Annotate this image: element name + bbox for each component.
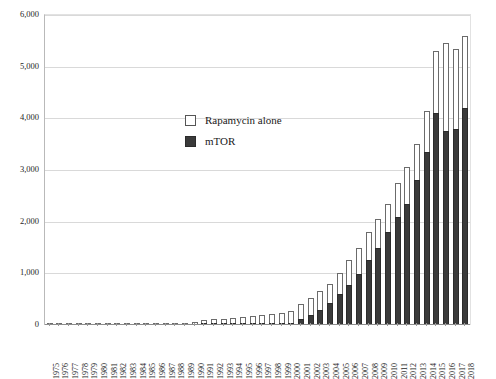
bar-group bbox=[462, 15, 468, 325]
x-tick-mark bbox=[445, 323, 446, 326]
x-tick-mark bbox=[310, 323, 311, 326]
bar-mtor bbox=[453, 129, 459, 325]
bar-group bbox=[337, 15, 343, 325]
bar-group bbox=[56, 15, 62, 325]
x-tick-mark bbox=[387, 323, 388, 326]
x-tick-label: 1990 bbox=[197, 363, 206, 379]
x-tick-mark bbox=[252, 323, 253, 326]
x-axis-labels: 1975197619771978197919801981198219831984… bbox=[44, 327, 471, 366]
bar-group bbox=[298, 15, 304, 325]
x-tick-label: 1982 bbox=[119, 363, 128, 379]
bar-group bbox=[221, 15, 227, 325]
x-tick-mark bbox=[271, 323, 272, 326]
x-tick-label: 1980 bbox=[100, 363, 109, 379]
x-tick-mark bbox=[155, 323, 156, 326]
bar-mtor bbox=[356, 274, 362, 325]
x-tick-mark bbox=[232, 323, 233, 326]
x-tick-mark bbox=[136, 323, 137, 326]
x-tick-label: 2010 bbox=[390, 363, 399, 379]
y-tick-label: 1,000 bbox=[20, 267, 39, 277]
x-tick-label: 2001 bbox=[303, 363, 312, 379]
y-tick-label: 6,000 bbox=[20, 9, 39, 19]
bar-mtor bbox=[337, 294, 343, 325]
bar-group bbox=[153, 15, 159, 325]
x-tick-label: 1994 bbox=[235, 363, 244, 379]
x-tick-label: 1997 bbox=[264, 363, 273, 379]
x-tick-label: 1984 bbox=[139, 363, 148, 379]
bar-group bbox=[453, 15, 459, 325]
bar-group bbox=[288, 15, 294, 325]
x-tick-mark bbox=[261, 323, 262, 326]
x-tick-mark bbox=[49, 323, 50, 326]
legend-swatch-icon-mtor bbox=[185, 136, 196, 147]
bar-group bbox=[240, 15, 246, 325]
x-tick-mark bbox=[348, 323, 349, 326]
x-tick-mark bbox=[68, 323, 69, 326]
x-tick-mark bbox=[107, 323, 108, 326]
x-tick-label: 1991 bbox=[206, 363, 215, 379]
bar-group bbox=[279, 15, 285, 325]
legend-item-mtor: mTOR bbox=[185, 135, 282, 147]
bar-group bbox=[424, 15, 430, 325]
x-tick-mark bbox=[78, 323, 79, 326]
x-tick-mark bbox=[145, 323, 146, 326]
bar-group bbox=[66, 15, 72, 325]
x-tick-label: 1985 bbox=[148, 363, 157, 379]
x-tick-label: 1989 bbox=[187, 363, 196, 379]
x-tick-mark bbox=[319, 323, 320, 326]
x-tick-label: 1979 bbox=[90, 363, 99, 379]
x-tick-mark bbox=[464, 323, 465, 326]
x-tick-mark bbox=[416, 323, 417, 326]
bar-group bbox=[395, 15, 401, 325]
bar-group bbox=[230, 15, 236, 325]
x-tick-label: 2006 bbox=[351, 363, 360, 379]
bar-group bbox=[143, 15, 149, 325]
bar-mtor bbox=[395, 217, 401, 326]
legend-label-rapamycin-alone: Rapamycin alone bbox=[205, 114, 282, 126]
x-tick-mark bbox=[223, 323, 224, 326]
x-tick-label: 2015 bbox=[438, 363, 447, 379]
bar-group bbox=[356, 15, 362, 325]
x-tick-label: 1988 bbox=[177, 363, 186, 379]
x-tick-label: 2005 bbox=[342, 363, 351, 379]
x-tick-mark bbox=[435, 323, 436, 326]
bar-group bbox=[47, 15, 53, 325]
y-tick-label: 2,000 bbox=[20, 216, 39, 226]
bar-group bbox=[404, 15, 410, 325]
bar-group bbox=[134, 15, 140, 325]
x-tick-label: 1981 bbox=[110, 363, 119, 379]
x-tick-mark bbox=[339, 323, 340, 326]
bar-group bbox=[259, 15, 265, 325]
x-tick-mark bbox=[426, 323, 427, 326]
y-tick-label: 0 bbox=[35, 319, 39, 329]
bar-group bbox=[201, 15, 207, 325]
x-tick-mark bbox=[165, 323, 166, 326]
x-tick-label: 2004 bbox=[332, 363, 341, 379]
x-tick-mark bbox=[406, 323, 407, 326]
x-tick-label: 1998 bbox=[274, 363, 283, 379]
x-tick-mark bbox=[194, 323, 195, 326]
bar-group bbox=[76, 15, 82, 325]
x-tick-mark bbox=[174, 323, 175, 326]
x-tick-mark bbox=[377, 323, 378, 326]
bar-group bbox=[95, 15, 101, 325]
x-tick-label: 1986 bbox=[158, 363, 167, 379]
bar-group bbox=[433, 15, 439, 325]
x-tick-mark bbox=[126, 323, 127, 326]
x-tick-label: 1975 bbox=[52, 363, 61, 379]
x-tick-label: 2014 bbox=[429, 363, 438, 379]
plot-area: Rapamycin alone mTOR bbox=[44, 14, 471, 325]
legend-item-rapamycin-alone: Rapamycin alone bbox=[185, 114, 282, 126]
x-tick-label: 1999 bbox=[284, 363, 293, 379]
x-tick-label: 2003 bbox=[322, 363, 331, 379]
bar-mtor bbox=[433, 113, 439, 325]
y-axis-labels: 01,0002,0003,0004,0005,0006,000 bbox=[0, 14, 39, 325]
bar-group bbox=[85, 15, 91, 325]
x-tick-mark bbox=[397, 323, 398, 326]
bar-group bbox=[346, 15, 352, 325]
bar-group bbox=[385, 15, 391, 325]
bar-group bbox=[414, 15, 420, 325]
x-tick-mark bbox=[184, 323, 185, 326]
x-tick-mark bbox=[281, 323, 282, 326]
